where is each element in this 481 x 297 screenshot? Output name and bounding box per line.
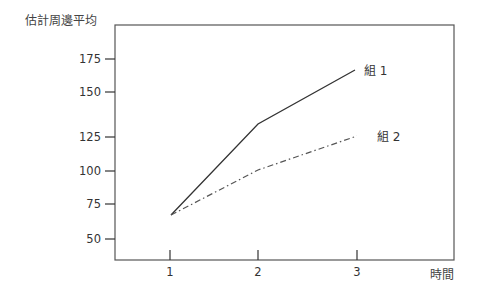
series-line-group-1 (171, 70, 355, 215)
chart-plot-area (0, 0, 481, 297)
x-axis-ticks (170, 250, 357, 260)
series-line-group-2 (171, 136, 357, 215)
plot-frame (115, 25, 454, 260)
y-axis-ticks (105, 59, 115, 239)
